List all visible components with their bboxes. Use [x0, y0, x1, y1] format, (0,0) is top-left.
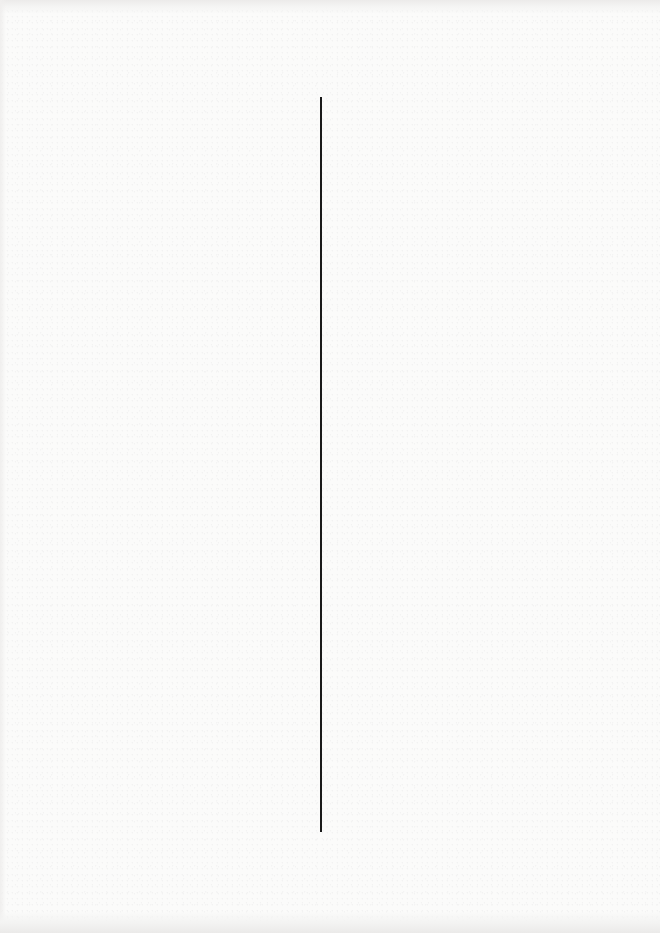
scanned-page — [0, 0, 660, 933]
scan-edge-left — [0, 0, 6, 933]
scan-edge-top — [0, 0, 660, 14]
vertical-divider-line — [320, 97, 322, 832]
paper-texture — [0, 0, 660, 933]
scan-edge-bottom — [0, 911, 660, 933]
